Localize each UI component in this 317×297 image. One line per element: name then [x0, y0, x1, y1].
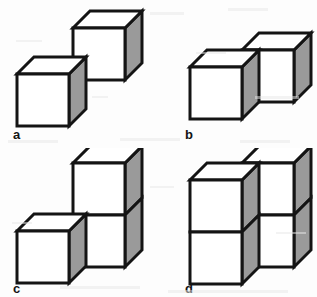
panel-c-drawing: [0, 148, 160, 297]
panel-a: a: [0, 0, 160, 148]
cube-c-left: [17, 214, 86, 283]
panel-d: d: [160, 148, 317, 297]
panel-label-b: b: [185, 128, 193, 141]
panel-a-drawing: [0, 0, 160, 148]
panel-label-d: d: [185, 282, 193, 295]
cube-b-left: [190, 50, 259, 119]
panel-c: c: [0, 148, 160, 297]
cube-a-lower: [17, 57, 86, 126]
panel-label-c: c: [13, 282, 20, 295]
panel-b-drawing: [160, 0, 317, 148]
cube-c-right-top: [73, 148, 142, 215]
panel-b: b: [160, 0, 317, 148]
panel-label-a: a: [13, 128, 20, 141]
figure-canvas: a b: [0, 0, 317, 297]
cube-d-left-top: [190, 163, 259, 232]
panel-d-drawing: [160, 148, 317, 297]
